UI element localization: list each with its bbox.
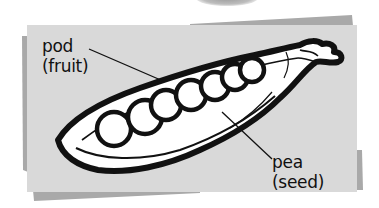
pod-label-type: (fruit): [42, 56, 88, 76]
pea-label: pea (seed): [272, 152, 324, 192]
pod-label: pod (fruit): [42, 36, 88, 76]
pod-label-name: pod: [42, 36, 88, 56]
pea-7: [240, 58, 264, 82]
pea-label-name: pea: [272, 152, 324, 172]
pea-label-type: (seed): [272, 172, 324, 192]
diagram-stage: pod (fruit) pea (seed): [0, 0, 379, 208]
